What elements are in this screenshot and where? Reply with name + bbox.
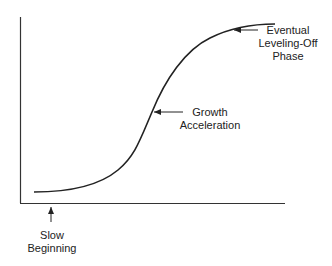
leveling-line-3: Phase (258, 50, 318, 63)
leveling-line-2: Leveling-Off (258, 37, 318, 50)
slow-line-2: Beginning (24, 242, 80, 255)
leveling-line-1: Eventual (258, 24, 318, 37)
growth-line-2: Acceleration (178, 119, 242, 132)
growth-label: Growth Acceleration (178, 106, 242, 132)
slow-label: Slow Beginning (24, 229, 80, 255)
slow-line-1: Slow (24, 229, 80, 242)
leveling-label: Eventual Leveling-Off Phase (258, 24, 318, 63)
growth-line-1: Growth (178, 106, 242, 119)
